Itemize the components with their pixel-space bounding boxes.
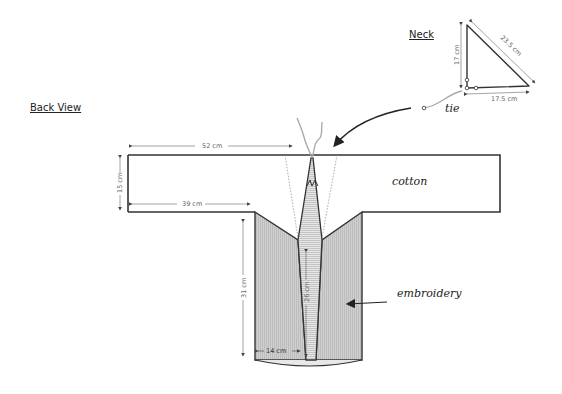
tie-pointer-arrow	[335, 108, 411, 145]
dim-body-length: 31 cm	[240, 222, 248, 356]
dim-underarm: 39 cm	[132, 200, 250, 208]
cotton-label: cotton	[392, 175, 427, 188]
dim-label-31: 31 cm	[240, 278, 248, 298]
dim-sleeve-width: 52 cm	[132, 142, 292, 150]
tie-strings	[297, 118, 322, 158]
dim-sleeve-height: 15 cm	[116, 158, 124, 210]
neck-tie: tie	[422, 91, 462, 115]
tie-label: tie	[445, 102, 460, 115]
dim-label-39: 39 cm	[182, 200, 202, 208]
neck-title: Neck	[409, 29, 434, 40]
neck-diagram: 17 cm 23.5 cm 17.5 cm	[453, 22, 535, 103]
dim-label-neck-17-5: 17.5 cm	[491, 95, 517, 103]
dim-label-52: 52 cm	[202, 142, 222, 150]
embroidery-label: embroidery	[397, 287, 462, 300]
garment-diagram: Back View Neck 52 cm 15 cm 39 cm	[0, 0, 562, 394]
dim-label-neck-17: 17 cm	[453, 45, 461, 65]
dim-label-14: 14 cm	[266, 347, 286, 355]
dim-label-26: 26 cm	[303, 282, 311, 302]
dim-label-15: 15 cm	[116, 173, 124, 193]
dim-label-neck-23-5: 23.5 cm	[499, 34, 524, 58]
back-view-title: Back View	[30, 102, 81, 113]
